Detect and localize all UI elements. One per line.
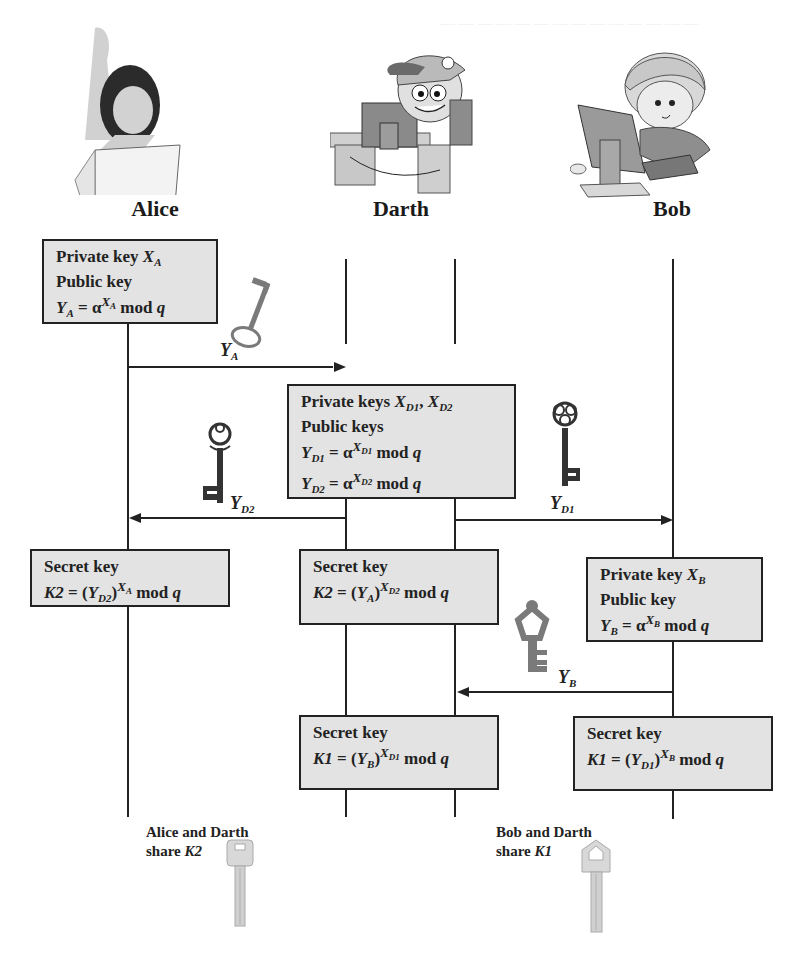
yd1-arrowhead (661, 515, 673, 525)
bob-secret-box: Secret key K1 = (YD1)XB mod q (573, 716, 773, 791)
bob-label: Bob (612, 196, 732, 222)
yb-arrow (468, 691, 673, 693)
darth-keys-box: Private keys XD1, XD2 Public keys YD1 = … (287, 384, 516, 499)
darth-lifeline-1-mid (345, 497, 347, 550)
bob-lifeline-mid (672, 640, 674, 716)
yb-label: YB (558, 667, 576, 689)
background-text: — — — — — — — — — — — — — — (440, 12, 699, 34)
ya-arrowhead (334, 362, 346, 372)
darth-illustration (330, 45, 480, 200)
shared-k1-caption: Bob and Darth share K1 (496, 823, 592, 861)
darth-lifeline-2-lower (454, 623, 456, 715)
yd1-arrow (455, 519, 661, 521)
alice-label: Alice (95, 196, 215, 222)
darth-lifeline-1-bottom (345, 788, 347, 817)
ya-arrow (127, 366, 333, 368)
key-icon (512, 600, 552, 675)
darth-secret-k1-box: Secret key K1 = (YB)XD1 mod q (299, 715, 499, 790)
yd2-arrowhead (129, 513, 141, 523)
alice-keys-box: Private key XA Public key YA = αXA mod q (42, 239, 218, 324)
darth-lifeline-2-mid (454, 497, 456, 550)
bob-illustration (570, 45, 720, 200)
darth-lifeline-2-top (454, 259, 456, 344)
bob-lifeline-top (672, 259, 674, 559)
darth-label: Darth (341, 196, 461, 222)
darth-lifeline-1-top (345, 259, 347, 344)
alice-secret-box: Secret key K2 = (YD2)XA mod q (30, 549, 230, 607)
bob-keys-box: Private key XB Public key YB = αXB mod q (586, 557, 763, 642)
house-key-icon (225, 838, 255, 930)
yd2-arrow (140, 517, 346, 519)
ya-label: YA (220, 340, 238, 362)
key-icon (545, 400, 585, 495)
darth-secret-k2-box: Secret key K2 = (YA)XD2 mod q (299, 549, 499, 625)
yd2-label: YD2 (230, 493, 254, 515)
yb-arrowhead (457, 687, 469, 697)
darth-lifeline-1-lower (345, 623, 347, 715)
alice-illustration (55, 20, 195, 195)
key-icon (228, 275, 283, 350)
bob-lifeline-bottom (672, 790, 674, 819)
yd1-label: YD1 (550, 493, 574, 515)
house-key-icon (580, 838, 612, 936)
darth-lifeline-2-bottom (454, 788, 456, 817)
